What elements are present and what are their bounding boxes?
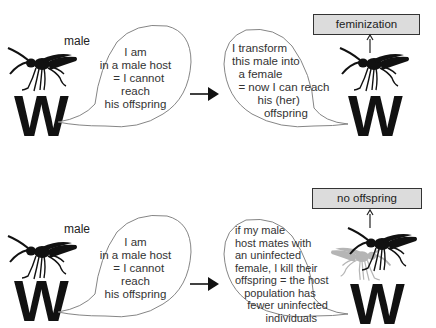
bubble-text: I am in a male host = I cannot reach his… [88, 236, 183, 301]
bubble-text: I am in a male host = I cannot reach his… [88, 46, 183, 111]
outcome-box: feminization [313, 14, 420, 35]
arrow-icon [190, 86, 220, 102]
bubble-text: I transform this male into a female = no… [232, 42, 342, 120]
wasp-icon [346, 226, 418, 274]
wolbachia-letter: W [348, 87, 401, 145]
wolbachia-letter: W [350, 275, 403, 328]
outcome-box: no offspring [312, 188, 422, 209]
arrow-icon [190, 276, 220, 292]
